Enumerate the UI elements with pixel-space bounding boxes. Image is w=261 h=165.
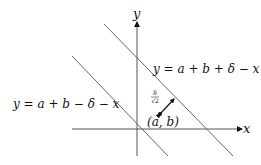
diagram-canvas: y x y = a + b + δ − x y = a + b − δ − x … <box>0 0 261 165</box>
x-axis-label: x <box>243 121 251 136</box>
fraction-numerator: δ <box>153 89 157 96</box>
lower-line-label: y = a + b − δ − x <box>12 97 120 111</box>
upper-line-label: y = a + b + δ − x <box>152 62 260 76</box>
fraction-denominator: √2 <box>151 97 159 104</box>
point-label: (a, b) <box>147 115 179 129</box>
upper-line <box>104 24 233 156</box>
distance-arrow <box>160 99 174 114</box>
y-axis-label: y <box>132 6 141 21</box>
